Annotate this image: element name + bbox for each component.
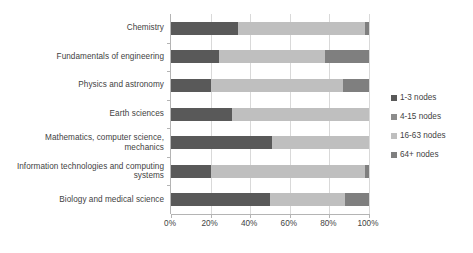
- bar-row[interactable]: [171, 193, 369, 206]
- x-axis-tick-label: 0%: [150, 219, 190, 228]
- legend-item[interactable]: 16-63 nodes: [391, 126, 471, 145]
- bar-row[interactable]: [171, 165, 369, 178]
- legend-item[interactable]: 1-3 nodes: [391, 88, 471, 107]
- bar-segment[interactable]: [365, 165, 369, 178]
- category-label: Fundamentals of engineering: [4, 52, 164, 62]
- bar-segment[interactable]: [365, 22, 369, 35]
- legend-item[interactable]: 4-15 nodes: [391, 107, 471, 126]
- legend-label: 16-63 nodes: [400, 131, 446, 140]
- bar-row[interactable]: [171, 108, 369, 121]
- bar-segment[interactable]: [171, 22, 238, 35]
- y-axis-tick: [167, 185, 171, 186]
- stacked-bar-chart: ChemistryFundamentals of engineeringPhys…: [0, 0, 473, 253]
- bar-segment[interactable]: [171, 165, 211, 178]
- x-axis-tick-label: 80%: [308, 219, 348, 228]
- x-axis-tick: [250, 214, 251, 218]
- y-axis-tick: [167, 100, 171, 101]
- x-axis-tick: [329, 214, 330, 218]
- legend-label: 64+ nodes: [400, 150, 438, 159]
- bar-row[interactable]: [171, 22, 369, 35]
- legend-swatch-icon: [391, 152, 397, 158]
- category-label: Earth sciences: [4, 109, 164, 119]
- legend-swatch-icon: [391, 133, 397, 139]
- gridline: [369, 14, 370, 214]
- bar-segment[interactable]: [238, 22, 365, 35]
- bar-segment[interactable]: [325, 50, 369, 63]
- category-label: Mathematics, computer science, mechanics: [4, 133, 164, 152]
- category-label: Physics and astronomy: [4, 80, 164, 90]
- x-axis-line: [171, 214, 370, 215]
- bar-segment[interactable]: [272, 136, 369, 149]
- bar-segment[interactable]: [171, 79, 211, 92]
- x-axis-tick: [171, 214, 172, 218]
- x-axis-tick: [211, 214, 212, 218]
- category-axis: ChemistryFundamentals of engineeringPhys…: [4, 14, 168, 214]
- legend-label: 1-3 nodes: [400, 93, 436, 102]
- legend-item[interactable]: 64+ nodes: [391, 145, 471, 164]
- x-axis-tick-label: 60%: [269, 219, 309, 228]
- x-axis-tick-label: 100%: [348, 219, 388, 228]
- category-label: Biology and medical science: [4, 195, 164, 205]
- legend-label: 4-15 nodes: [400, 112, 441, 121]
- bar-segment[interactable]: [171, 50, 219, 63]
- bar-row[interactable]: [171, 136, 369, 149]
- category-label: Chemistry: [4, 23, 164, 33]
- x-axis-tick: [290, 214, 291, 218]
- bar-segment[interactable]: [171, 136, 272, 149]
- x-axis-tick-label: 20%: [190, 219, 230, 228]
- bar-segment[interactable]: [211, 165, 365, 178]
- bar-segment[interactable]: [232, 108, 369, 121]
- bar-segment[interactable]: [345, 193, 369, 206]
- y-axis-tick: [167, 128, 171, 129]
- bar-row[interactable]: [171, 79, 369, 92]
- y-axis-tick: [167, 157, 171, 158]
- chart-legend: 1-3 nodes4-15 nodes16-63 nodes64+ nodes: [391, 88, 471, 164]
- bar-segment[interactable]: [343, 79, 369, 92]
- legend-swatch-icon: [391, 95, 397, 101]
- y-axis-tick: [167, 71, 171, 72]
- bar-segment[interactable]: [270, 193, 345, 206]
- x-axis-tick: [369, 214, 370, 218]
- plot-area: [170, 14, 369, 214]
- bar-segment[interactable]: [171, 108, 232, 121]
- x-axis-tick-label: 40%: [229, 219, 269, 228]
- bar-row[interactable]: [171, 50, 369, 63]
- y-axis-tick: [167, 43, 171, 44]
- legend-swatch-icon: [391, 114, 397, 120]
- bar-segment[interactable]: [211, 79, 344, 92]
- bar-segment[interactable]: [171, 193, 270, 206]
- bar-segment[interactable]: [219, 50, 326, 63]
- x-axis-tick-labels: 0%20%40%60%80%100%: [170, 219, 368, 233]
- category-label: Information technologies and computing s…: [4, 162, 164, 181]
